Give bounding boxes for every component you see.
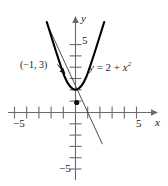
point-marker-dot — [74, 100, 79, 105]
equation-plus-sign: + — [114, 61, 120, 73]
y-axis-arrow-icon — [72, 16, 79, 23]
equation-equals-sign: = — [97, 61, 103, 73]
point-coordinate-label: (−1, 3) — [20, 60, 47, 70]
y-axis-tick-label-neg5: −5 — [59, 163, 71, 174]
secant-line — [46, 22, 102, 144]
y-axis — [72, 16, 79, 180]
x-axis — [8, 109, 158, 116]
x-axis-name-label: x — [155, 117, 160, 128]
y-axis-name-label: y — [81, 13, 86, 24]
equation-label: y = 2 + x2 — [89, 61, 131, 73]
equation-constant-term: 2 — [106, 61, 112, 73]
graph-figure: (−1, 3) y = 2 + x2 −5 5 5 −5 x y — [0, 0, 168, 186]
x-axis-tick-label-pos5: 5 — [136, 118, 142, 129]
y-axis-tick-label-pos5: 5 — [82, 35, 88, 46]
x-axis-tick-label-neg5: −5 — [13, 118, 25, 129]
equation-exponent: 2 — [128, 60, 132, 68]
coordinate-plot — [0, 0, 168, 186]
x-axis-arrow-icon — [151, 109, 158, 116]
equation-y-term: y — [89, 61, 94, 73]
